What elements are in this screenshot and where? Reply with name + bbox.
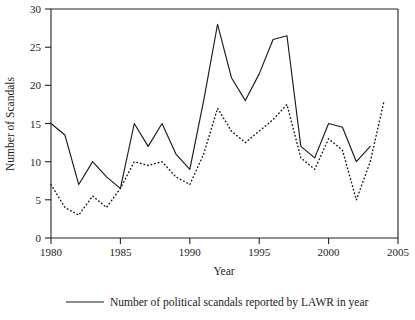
y-tick-label-30: 30: [30, 3, 42, 15]
scandals-line-chart: 0 5 10 15 20 25 30 1980 1985 1990 1995 2…: [0, 0, 415, 320]
y-tick-label-0: 0: [36, 232, 42, 244]
y-tick-label-5: 5: [36, 194, 42, 206]
x-tick-group: 1980 1985 1990 1995 2000 2005: [40, 238, 410, 258]
y-tick-label-20: 20: [30, 79, 42, 91]
series-dotted-path: [51, 101, 384, 216]
x-axis-title: Year: [213, 265, 234, 277]
x-tick-label-2005: 2005: [387, 246, 410, 258]
legend-label-solid: Number of political scandals reported by…: [110, 296, 369, 309]
series-group: [51, 24, 384, 215]
y-tick-label-10: 10: [30, 156, 42, 168]
x-tick-label-1990: 1990: [179, 246, 202, 258]
chart-figure: 0 5 10 15 20 25 30 1980 1985 1990 1995 2…: [0, 0, 415, 320]
series-solid-path: [51, 24, 370, 188]
y-axis-title: Number of Scandals: [4, 77, 16, 171]
legend: Number of political scandals reported by…: [66, 296, 369, 309]
x-tick-label-1995: 1995: [248, 246, 271, 258]
x-tick-label-1985: 1985: [109, 246, 132, 258]
y-tick-label-15: 15: [30, 118, 42, 130]
x-tick-label-1980: 1980: [40, 246, 63, 258]
y-tick-group: 0 5 10 15 20 25 30: [30, 3, 51, 244]
y-tick-label-25: 25: [30, 41, 42, 53]
axes-group: [51, 9, 398, 238]
x-tick-label-2000: 2000: [318, 246, 341, 258]
